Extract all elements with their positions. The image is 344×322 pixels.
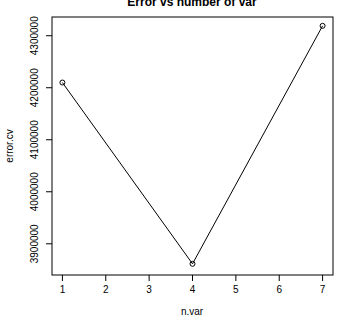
y-tick-label: 3900000 — [29, 224, 40, 263]
y-axis: 39000004000000410000042000004300000 — [29, 16, 52, 263]
data-series — [60, 23, 325, 266]
chart-title: Error vs number of var — [127, 0, 257, 9]
x-tick-label: 3 — [146, 284, 152, 295]
y-tick-label: 4100000 — [29, 120, 40, 159]
x-tick-label: 7 — [320, 284, 326, 295]
series-line — [62, 26, 322, 264]
y-tick-label: 4000000 — [29, 172, 40, 211]
x-tick-label: 2 — [103, 284, 109, 295]
plot-frame — [52, 17, 333, 275]
y-tick-label: 4200000 — [29, 68, 40, 107]
x-tick-label: 1 — [60, 284, 66, 295]
line-chart: Error vs number of var 1234567 390000040… — [0, 0, 344, 322]
y-tick-label: 4300000 — [29, 16, 40, 55]
x-axis-label: n.var — [181, 306, 204, 317]
x-tick-label: 6 — [276, 284, 282, 295]
x-tick-label: 4 — [190, 284, 196, 295]
data-point-marker — [320, 23, 325, 28]
x-tick-label: 5 — [233, 284, 239, 295]
y-axis-label: error.cv — [4, 129, 15, 162]
x-axis: 1234567 — [60, 275, 326, 295]
